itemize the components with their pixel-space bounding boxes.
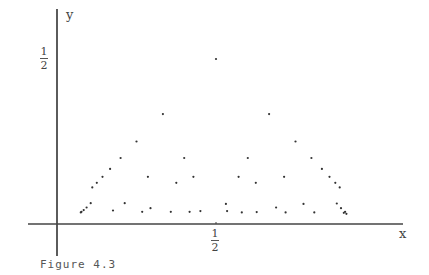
data-point bbox=[135, 140, 137, 142]
data-points bbox=[80, 58, 348, 215]
data-point bbox=[91, 186, 93, 188]
data-point bbox=[226, 210, 228, 212]
data-point bbox=[147, 176, 149, 178]
data-point bbox=[183, 157, 185, 159]
y-tick-numerator: 1 bbox=[41, 46, 48, 57]
data-point bbox=[120, 157, 122, 159]
data-point bbox=[302, 203, 304, 205]
data-point bbox=[247, 157, 249, 159]
data-point bbox=[294, 140, 296, 142]
data-point bbox=[285, 211, 287, 213]
data-point bbox=[149, 207, 151, 209]
data-point bbox=[328, 176, 330, 178]
figure-caption: Figure 4.3 bbox=[40, 258, 116, 271]
data-point bbox=[241, 211, 243, 213]
x-tick-numerator: 1 bbox=[212, 228, 219, 239]
data-point bbox=[225, 203, 227, 205]
data-point bbox=[124, 202, 126, 204]
y-axis-label: y bbox=[66, 7, 73, 22]
data-point bbox=[275, 206, 277, 208]
x-axis-label: x bbox=[399, 226, 406, 241]
data-point bbox=[192, 176, 194, 178]
data-point bbox=[80, 211, 82, 213]
data-point bbox=[162, 113, 164, 115]
data-point bbox=[336, 202, 338, 204]
data-point bbox=[189, 211, 191, 213]
data-point bbox=[101, 176, 103, 178]
data-point bbox=[343, 212, 345, 214]
data-point bbox=[345, 213, 347, 215]
y-tick-label-half: 1 2 bbox=[40, 46, 48, 71]
data-point bbox=[86, 206, 88, 208]
y-tick-denominator: 2 bbox=[41, 60, 48, 71]
data-point bbox=[112, 209, 114, 211]
data-point bbox=[321, 168, 323, 170]
data-point bbox=[199, 210, 201, 212]
data-point bbox=[175, 182, 177, 184]
data-point bbox=[83, 209, 85, 211]
data-point bbox=[334, 182, 336, 184]
data-point bbox=[268, 113, 270, 115]
x-tick-label-half: 1 2 bbox=[211, 228, 219, 253]
data-point bbox=[255, 182, 257, 184]
data-point bbox=[256, 211, 258, 213]
data-point bbox=[96, 182, 98, 184]
x-tick-denominator: 2 bbox=[212, 242, 219, 253]
data-point bbox=[215, 58, 217, 60]
data-point bbox=[170, 211, 172, 213]
data-point bbox=[339, 186, 341, 188]
data-point bbox=[109, 168, 111, 170]
data-point bbox=[313, 211, 315, 213]
data-point bbox=[283, 176, 285, 178]
data-point bbox=[310, 157, 312, 159]
data-point bbox=[90, 202, 92, 204]
data-point bbox=[340, 207, 342, 209]
data-point bbox=[238, 176, 240, 178]
data-point bbox=[141, 211, 143, 213]
